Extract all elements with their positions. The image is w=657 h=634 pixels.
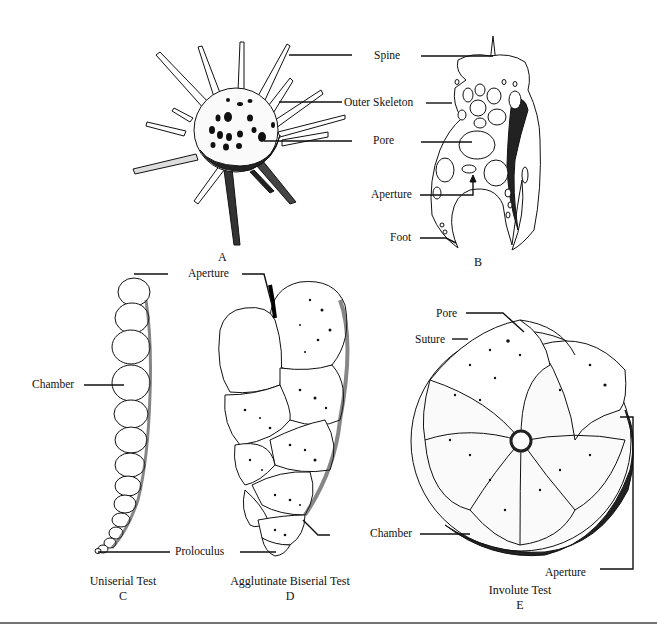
radiolarian-b-drawing xyxy=(420,36,540,250)
label-aperture-b: Aperture xyxy=(371,189,412,201)
panel-b-letter: B xyxy=(474,255,482,270)
label-spine: Spine xyxy=(374,50,400,62)
panel-a-letter: A xyxy=(218,250,227,265)
foraminifera-radiolaria-diagram xyxy=(0,0,657,634)
panel-d-title: Agglutinate Biserial Test xyxy=(220,574,360,589)
label-pore-b: Pore xyxy=(373,135,394,147)
label-chamber-c: Chamber xyxy=(32,379,74,391)
label-outer-skeleton: Outer Skeleton xyxy=(344,97,413,109)
label-suture: Suture xyxy=(415,334,445,346)
label-pore-e: Pore xyxy=(436,308,457,320)
involute-test-e-drawing xyxy=(411,313,633,569)
label-chamber-e: Chamber xyxy=(370,528,412,540)
uniserial-test-c-drawing xyxy=(84,274,170,554)
label-proloculus: Proloculus xyxy=(175,546,224,558)
label-foot: Foot xyxy=(390,232,411,244)
panel-c-title: Uniserial Test xyxy=(88,574,158,589)
label-aperture-e: Aperture xyxy=(545,567,586,579)
biserial-test-d-drawing xyxy=(219,274,348,556)
radiolarian-a-drawing xyxy=(133,42,352,245)
label-aperture-d: Aperture xyxy=(188,268,229,280)
panel-c-letter: C xyxy=(88,589,158,604)
panel-e-title: Involute Test xyxy=(480,583,560,598)
panel-d-letter: D xyxy=(220,589,360,604)
panel-e-letter: E xyxy=(480,598,560,613)
